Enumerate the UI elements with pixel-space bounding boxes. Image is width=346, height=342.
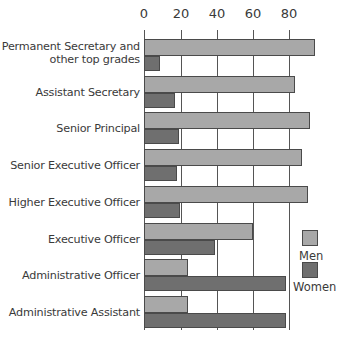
bar-women [144,313,286,328]
x-tick-label: 20 [173,6,190,21]
gridline [289,30,290,330]
category-label: Administrative Officer [22,269,140,282]
bar-chart: 0 20 40 60 80 Permanent Secretary and ot… [0,0,346,342]
bar-men [144,223,253,240]
bar-men [144,186,308,203]
category-label: Permanent Secretary and other top grades [2,40,140,66]
bar-women [144,166,177,181]
legend-swatch-women [302,262,318,278]
category-label: Senior Principal [56,122,140,135]
category-label-line: other top grades [2,53,140,66]
category-label: Higher Executive Officer [9,196,140,209]
bar-women [144,56,160,71]
legend-swatch-men [302,230,318,246]
category-label: Assistant Secretary [35,86,140,99]
bar-men [144,76,295,93]
bar-women [144,276,286,291]
legend-label-women: Women [293,280,336,294]
bar-women [144,203,180,218]
bar-men [144,39,315,56]
x-tick-label: 40 [209,6,226,21]
category-label: Executive Officer [48,233,140,246]
bar-men [144,296,188,313]
legend-label-men: Men [299,249,323,263]
x-tick-label: 60 [245,6,262,21]
category-label: Senior Executive Officer [10,159,140,172]
bar-men [144,112,310,129]
category-label: Administrative Assistant [9,306,140,319]
x-tick-label: 80 [281,6,298,21]
bar-women [144,129,179,144]
bar-men [144,259,188,276]
bar-women [144,240,215,255]
bar-men [144,149,302,166]
category-label-line: Permanent Secretary and [2,40,140,53]
bar-women [144,93,175,108]
x-tick-label: 0 [140,6,148,21]
